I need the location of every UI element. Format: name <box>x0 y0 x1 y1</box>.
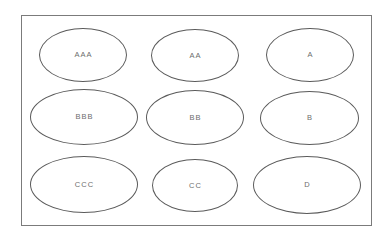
diagram-frame: AAAAAABBBBBBCCCCCD <box>21 15 372 226</box>
ellipse-node[interactable]: CC <box>152 159 238 212</box>
ellipse-node[interactable]: AAA <box>39 28 127 82</box>
ellipse-label: AAA <box>73 51 92 59</box>
ellipse-label: A <box>306 51 313 59</box>
ellipse-label: CC <box>188 182 202 190</box>
ellipse-node[interactable]: B <box>260 91 359 145</box>
ellipse-label: CCC <box>74 181 95 189</box>
ellipse-node[interactable]: BBB <box>30 89 138 145</box>
diagram-canvas: AAAAAABBBBBBCCCCCD <box>0 0 391 240</box>
ellipse-node[interactable]: CCC <box>30 156 138 213</box>
ellipse-label: BB <box>188 114 201 122</box>
ellipse-node[interactable]: BB <box>146 90 244 145</box>
ellipse-node[interactable]: D <box>253 156 361 214</box>
ellipse-label: AA <box>188 52 201 60</box>
ellipse-node[interactable]: AA <box>151 29 239 82</box>
ellipse-node[interactable]: A <box>266 28 354 82</box>
ellipse-label: B <box>306 114 313 122</box>
ellipse-label: BBB <box>74 113 93 121</box>
ellipse-label: D <box>303 181 311 189</box>
